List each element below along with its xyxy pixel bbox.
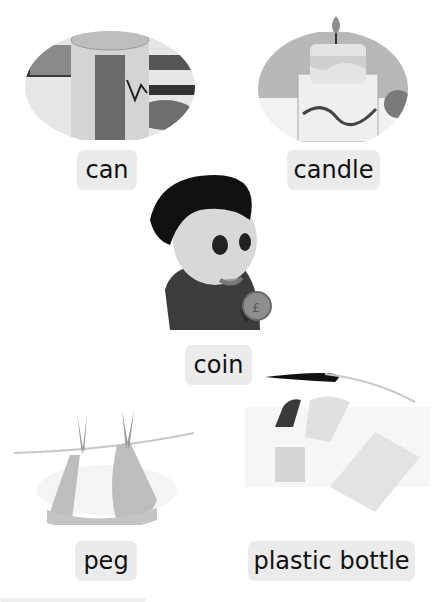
peg-picture [12,380,197,525]
boy-holding-coin-icon: £ [150,170,300,335]
plastic-bottle-label: plastic bottle [248,541,415,581]
peg-icon [12,380,197,525]
plastic-bottle-picture [235,372,435,517]
peg-label: peg [75,541,137,581]
coin-picture: £ [150,170,300,335]
candle-picture [258,14,408,142]
divider [0,598,146,602]
candle-icon [258,14,408,142]
svg-text:£: £ [252,300,260,315]
can-icon [25,25,195,140]
candle-label: candle [287,150,380,190]
can-label: can [77,150,137,190]
can-picture [25,25,195,140]
plastic-bottle-icon [235,372,435,517]
